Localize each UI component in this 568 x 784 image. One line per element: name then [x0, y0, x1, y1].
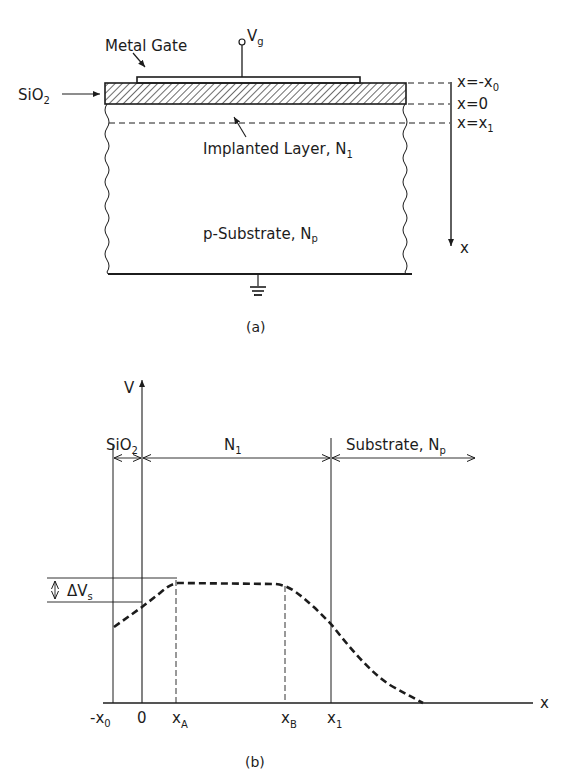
mos-implant-figure: Vg Metal Gate SiO2 x x=-x0 x=0: [0, 0, 568, 784]
region-oxide-label: SiO2: [106, 436, 138, 456]
substrate-label: p-Substrate, Np: [203, 225, 318, 244]
depth-marker-0: x=0: [457, 95, 488, 113]
implanted-layer-pointer: [234, 117, 246, 137]
substrate-left-edge: [105, 104, 109, 274]
oxide-layer: [105, 83, 406, 104]
panel-a: Vg Metal Gate SiO2 x x=-x0 x=0: [18, 27, 499, 335]
tick-neg-x0: -x0: [90, 709, 111, 729]
potential-curve: [114, 583, 423, 703]
tick-0: 0: [137, 709, 147, 727]
terminal-icon: [239, 39, 245, 45]
metal-gate-label: Metal Gate: [105, 37, 187, 55]
substrate-right-edge: [403, 104, 407, 274]
tick-x1: x1: [327, 709, 342, 730]
panel-b: V SiO2 N1 Substrate, Np ΔVs x -x0 0 xA x…: [47, 379, 549, 770]
tick-xB: xB: [281, 709, 297, 730]
region-n1-label: N1: [224, 436, 242, 456]
depth-marker-neg-x0: x=-x0: [457, 73, 499, 93]
region-substrate-label: Substrate, Np: [346, 436, 446, 456]
implanted-layer-label: Implanted Layer, N1: [203, 140, 353, 160]
tick-xA: xA: [172, 709, 188, 730]
oxide-label: SiO2: [18, 86, 50, 106]
metal-gate: [137, 77, 360, 83]
gate-voltage-label: Vg: [247, 27, 264, 47]
ground-icon: [250, 274, 266, 295]
v-axis-label: V: [124, 379, 135, 397]
panel-a-caption: (a): [246, 319, 266, 335]
panel-b-caption: (b): [245, 754, 265, 770]
x-axis-label: x: [540, 694, 549, 712]
depth-axis-label: x: [460, 239, 469, 257]
delta-vs-label: ΔVs: [67, 582, 93, 602]
metal-gate-pointer: [133, 53, 145, 67]
depth-marker-x1: x=x1: [457, 114, 494, 134]
